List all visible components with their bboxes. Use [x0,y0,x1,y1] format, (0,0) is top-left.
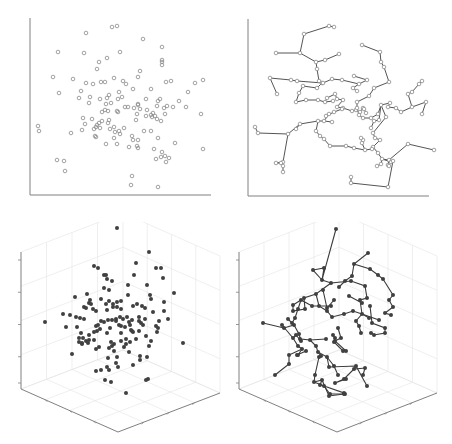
data-point [85,292,89,296]
data-point [95,67,99,71]
data-point [160,45,164,49]
data-point [166,317,170,321]
tree-node [349,181,353,185]
data-point [142,129,146,133]
data-point [116,365,120,369]
data-point [94,347,98,351]
tree-node [281,164,285,168]
tree-node [361,373,365,377]
tree-node [322,137,326,141]
data-point [82,317,86,321]
data-point [134,261,138,265]
data-point [81,116,85,120]
tree-node [316,98,320,102]
data-point [126,293,130,297]
data-point [102,273,106,277]
tree-node [323,100,327,104]
data-point [129,183,133,187]
tree-node [317,304,321,308]
tree-node [340,78,344,82]
tree-node [296,344,300,348]
axes-3d [18,252,220,432]
tree-node [360,43,364,47]
tree-node [299,298,303,302]
data-point [136,75,140,79]
tree-node [355,89,359,93]
data-point [111,305,115,309]
data-point [74,315,78,319]
data-point [92,264,96,268]
tree-node [332,110,336,114]
data-point [64,325,68,329]
data-point [131,363,135,367]
tree-node [344,377,348,381]
data-point [105,277,109,281]
data-point [108,326,112,330]
tree-node [332,364,336,368]
data-point [105,308,109,312]
tree-node [364,111,368,115]
tree-node [298,51,302,55]
tree-node [352,146,356,150]
tree-node [366,251,370,255]
tree-node [368,304,372,308]
tree-node [370,147,374,151]
data-point [99,368,103,372]
data-point [98,97,102,101]
data-point [110,318,114,322]
tree-node [296,307,300,311]
tree-node [360,312,364,316]
data-point [125,315,129,319]
tree-node [325,96,329,100]
data-point [135,302,139,306]
tree-node [314,292,318,296]
tree-node [383,331,387,335]
tree-nodes [253,24,436,189]
tree-node [304,98,308,102]
tree-node [273,373,277,377]
tree-node [320,378,324,382]
data-point [108,127,112,131]
tree-node [327,394,331,398]
tree-edge [373,105,434,160]
tree-node [350,274,354,278]
tree-node [295,79,299,83]
tree-node [381,277,385,281]
data-point [84,81,88,85]
tree-node [336,373,340,377]
data-point [138,358,142,362]
tree-node [376,112,380,116]
data-point [199,112,203,116]
data-point [151,310,155,314]
tree-node [337,52,341,56]
data-point [169,79,173,83]
tree-node [372,86,376,90]
tree-node [341,98,345,102]
data-point [186,90,190,94]
data-point [80,342,84,346]
data-point [156,326,160,330]
data-point [37,129,41,133]
tree-node [365,78,369,82]
tree-node [368,267,372,271]
tree-node [286,132,290,136]
tree-node [420,112,424,116]
tree-node [322,266,326,270]
tree-node [342,312,346,316]
data-point [91,82,95,86]
tree-node [406,142,410,146]
tree-edge [354,253,378,275]
tree-node [359,136,363,140]
data-point [68,313,72,317]
tree-node [341,349,345,353]
tree-node [410,90,414,94]
data-point [154,266,158,270]
data-point [138,107,142,111]
data-point [159,155,163,159]
tree-node [256,131,260,135]
data-point [167,156,171,160]
tree-node [331,333,335,337]
tree-node [274,161,278,165]
tree-node [406,92,410,96]
tree-node [316,119,320,123]
